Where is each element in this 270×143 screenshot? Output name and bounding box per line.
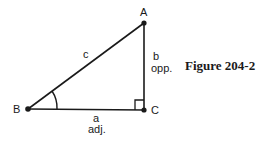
vertex-dot-b [25, 106, 31, 112]
side-a-adjacent [28, 109, 144, 110]
figure-canvas: A B C c b opp. a adj. Figure 204-2 [0, 0, 270, 143]
right-triangle-diagram: A B C c b opp. a adj. Figure 204-2 [0, 0, 270, 143]
side-sublabel-opp: opp. [151, 62, 172, 74]
angle-arc-icon [52, 91, 57, 109]
vertex-label-a: A [140, 6, 148, 18]
side-c-hypotenuse [28, 23, 144, 109]
figure-caption: Figure 204-2 [185, 58, 255, 73]
vertex-label-b: B [13, 103, 20, 115]
side-sublabel-adj: adj. [88, 123, 106, 135]
vertex-label-c: C [151, 104, 159, 116]
vertex-dot-c [141, 107, 146, 112]
side-label-b: b [153, 50, 159, 62]
side-label-c: c [83, 48, 89, 60]
vertex-dot-a [141, 20, 146, 25]
